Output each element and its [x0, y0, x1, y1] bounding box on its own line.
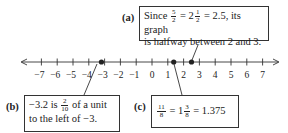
fraction: 12 — [195, 9, 201, 24]
plotted-point — [99, 59, 104, 64]
callout-a-label: (a) — [122, 12, 134, 23]
tick-label: −5 — [66, 70, 76, 80]
tick-label: 2 — [181, 70, 186, 80]
tick-label: −2 — [113, 70, 123, 80]
tick-label: 4 — [213, 70, 218, 80]
tick-label: 3 — [197, 70, 202, 80]
callout-c-box: 118 = 138 = 1.375 — [151, 95, 239, 128]
callout-b-line2: to the left of −3. — [29, 113, 115, 125]
tick-label: 5 — [229, 70, 234, 80]
callout-a-line2: is halfway between 2 and 3. — [144, 36, 264, 48]
tick-label: 6 — [244, 70, 249, 80]
tick-label: −7 — [34, 70, 44, 80]
fraction: 210 — [61, 98, 68, 113]
tick-label: −3 — [98, 70, 108, 80]
plotted-point — [171, 59, 176, 64]
callout-b-label: (b) — [6, 101, 19, 112]
tick-label: −4 — [82, 70, 92, 80]
tick-label: −6 — [50, 70, 60, 80]
callout-b-box: −3.2 is 210 of a unit to the left of −3. — [24, 95, 120, 132]
callout-b-line1: −3.2 is 210 of a unit — [29, 98, 115, 113]
tick-label: −1 — [129, 70, 139, 80]
callout-a-box: Since 52 = 212 = 2.5, its graph is halfw… — [139, 6, 269, 41]
fraction: 52 — [171, 9, 177, 24]
tick-label: 1 — [165, 70, 170, 80]
callout-a-line1: Since 52 = 212 = 2.5, its graph — [144, 9, 264, 36]
fraction: 118 — [157, 104, 166, 119]
fraction: 38 — [184, 104, 190, 119]
callout-c-label: (c) — [134, 101, 146, 112]
plotted-point — [189, 59, 194, 64]
tick-label: 0 — [150, 70, 155, 80]
tick-label: 7 — [260, 70, 265, 80]
